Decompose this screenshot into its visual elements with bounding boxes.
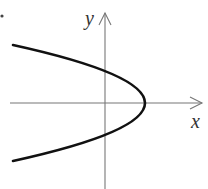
x-axis <box>10 97 202 109</box>
parabola-diagram: y x <box>0 0 208 189</box>
y-axis <box>99 13 111 189</box>
y-axis-label: y <box>83 7 94 30</box>
marker-dot <box>0 14 3 17</box>
x-axis-label: x <box>190 110 200 132</box>
